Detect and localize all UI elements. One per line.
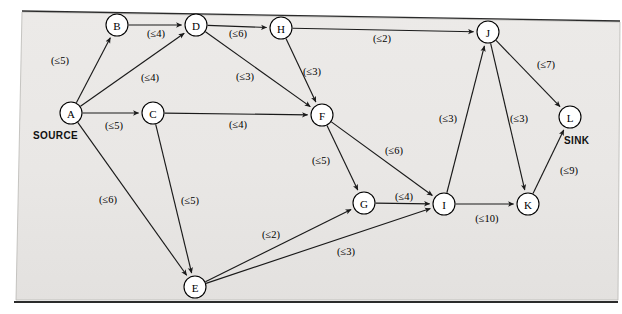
node-b[interactable]: B (106, 14, 128, 36)
edge-capacity-label-a-d: (≤4) (141, 72, 160, 84)
node-h[interactable]: H (270, 17, 292, 39)
source-terminal-label: SOURCE (33, 130, 78, 141)
node-label-h: H (277, 23, 285, 35)
edge-capacity-label-f-i: (≤6) (385, 145, 404, 157)
edge-capacity-label-e-i: (≤3) (337, 246, 356, 258)
edge-capacity-label-f-g: (≤5) (312, 155, 331, 167)
node-label-l: L (567, 112, 574, 124)
node-label-a: A (67, 108, 75, 120)
node-label-d: D (192, 20, 200, 32)
edge-capacity-label-g-i: (≤4) (395, 191, 414, 203)
edge-capacity-label-c-e: (≤5) (181, 195, 200, 207)
node-c[interactable]: C (142, 102, 164, 124)
edge-capacity-label-a-b: (≤5) (51, 55, 70, 67)
edge-capacity-label-e-g: (≤2) (262, 229, 281, 241)
node-label-c: C (149, 108, 156, 120)
edge-capacity-label-d-f: (≤3) (236, 71, 255, 83)
edge-capacity-label-j-k: (≤3) (510, 113, 529, 125)
node-d[interactable]: D (185, 14, 207, 36)
edge-g-to-i (376, 203, 430, 204)
node-label-j: J (486, 27, 491, 39)
node-label-e: E (192, 282, 199, 294)
edge-capacity-label-i-j: (≤3) (439, 113, 458, 125)
edge-capacity-label-i-k: (≤10) (475, 213, 499, 225)
node-label-g: G (360, 198, 368, 210)
node-g[interactable]: G (353, 192, 375, 214)
edge-capacity-label-k-l: (≤9) (560, 165, 579, 177)
sink-terminal-label: SINK (564, 135, 590, 146)
node-a[interactable]: A (60, 102, 82, 124)
node-e[interactable]: E (184, 276, 206, 298)
node-k[interactable]: K (517, 193, 539, 215)
figure-root: (≤5)(≤4)(≤5)(≤6)(≤4)(≤4)(≤5)(≤6)(≤3)(≤2)… (0, 0, 622, 314)
edge-capacity-label-h-j: (≤2) (373, 33, 392, 45)
node-label-b: B (113, 20, 120, 32)
node-label-i: I (442, 199, 446, 211)
edge-capacity-label-c-f: (≤4) (229, 119, 248, 131)
node-label-f: F (319, 110, 325, 122)
node-l[interactable]: L (559, 106, 581, 128)
node-label-k: K (524, 199, 532, 211)
edge-capacity-label-a-e: (≤6) (99, 194, 118, 206)
network-flow-diagram: (≤5)(≤4)(≤5)(≤6)(≤4)(≤4)(≤5)(≤6)(≤3)(≤2)… (0, 0, 622, 314)
edge-capacity-label-j-l: (≤7) (537, 59, 556, 71)
node-j[interactable]: J (477, 21, 499, 43)
edge-capacity-label-a-c: (≤5) (105, 120, 124, 132)
edge-capacity-label-h-f: (≤3) (303, 66, 322, 78)
node-i[interactable]: I (433, 193, 455, 215)
node-f[interactable]: F (311, 104, 333, 126)
edge-capacity-label-d-h: (≤6) (229, 28, 248, 40)
edge-capacity-label-b-d: (≤4) (147, 28, 166, 40)
